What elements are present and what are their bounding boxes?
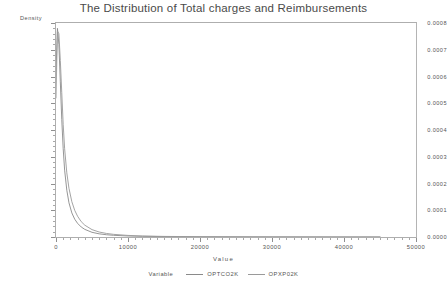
x-tick-minor (85, 238, 86, 240)
y-tick-label: 0.0003 (403, 154, 447, 160)
x-tick-minor (308, 238, 309, 240)
legend-entry-0: OPTCO2K (186, 271, 238, 277)
y-tick-minor (53, 119, 55, 120)
y-tick-mark (51, 130, 55, 131)
x-tick-minor (193, 238, 194, 240)
y-tick-mark (51, 77, 55, 78)
y-tick-minor (53, 87, 55, 88)
x-tick-label: 20000 (191, 244, 209, 250)
x-tick-minor (394, 238, 395, 240)
y-tick-minor (53, 44, 55, 45)
y-tick-mark (51, 50, 55, 51)
x-tick-label: 40000 (335, 244, 353, 250)
y-tick-minor (53, 114, 55, 115)
y-tick-minor (53, 167, 55, 168)
x-tick-minor (236, 238, 237, 240)
y-tick-minor (53, 55, 55, 56)
x-tick-mark (56, 238, 57, 242)
y-tick-minor (53, 39, 55, 40)
y-tick-label: 0.0006 (403, 74, 447, 80)
y-tick-mark (51, 157, 55, 158)
y-tick-minor (53, 141, 55, 142)
x-tick-minor (70, 238, 71, 240)
x-tick-mark (128, 238, 129, 242)
y-axis-label: Density (20, 15, 42, 21)
x-tick-minor (301, 238, 302, 240)
y-tick-minor (53, 226, 55, 227)
x-tick-minor (186, 238, 187, 240)
y-tick-minor (53, 109, 55, 110)
y-tick-label: 0.0004 (403, 127, 447, 133)
y-tick-minor (53, 178, 55, 179)
y-tick-label: 0.0001 (403, 207, 447, 213)
y-tick-mark (51, 184, 55, 185)
x-tick-minor (92, 238, 93, 240)
y-tick-minor (53, 71, 55, 72)
x-tick-minor (380, 238, 381, 240)
x-tick-minor (142, 238, 143, 240)
x-tick-minor (114, 238, 115, 240)
x-tick-minor (157, 238, 158, 240)
x-tick-minor (294, 238, 295, 240)
x-tick-minor (243, 238, 244, 240)
x-tick-minor (171, 238, 172, 240)
y-tick-label: 0.0008 (403, 20, 447, 26)
x-tick-minor (135, 238, 136, 240)
y-tick-mark (51, 23, 55, 24)
x-tick-minor (78, 238, 79, 240)
y-tick-minor (53, 60, 55, 61)
legend-swatch-icon-0 (186, 274, 203, 275)
legend-title: Variable (149, 271, 174, 277)
x-tick-minor (387, 238, 388, 240)
x-tick-minor (366, 238, 367, 240)
x-tick-minor (279, 238, 280, 240)
y-tick-minor (53, 194, 55, 195)
x-tick-mark (200, 238, 201, 242)
x-tick-minor (222, 238, 223, 240)
x-tick-minor (258, 238, 259, 240)
y-tick-minor (53, 28, 55, 29)
y-tick-minor (53, 173, 55, 174)
x-tick-minor (207, 238, 208, 240)
x-tick-minor (265, 238, 266, 240)
y-tick-label: 0.0007 (403, 47, 447, 53)
x-tick-minor (322, 238, 323, 240)
legend-label-0: OPTCO2K (207, 271, 238, 277)
y-tick-minor (53, 221, 55, 222)
density-curve-OPXP02K (56, 31, 380, 237)
y-tick-mark (51, 237, 55, 238)
x-tick-minor (106, 238, 107, 240)
chart-legend: Variable OPTCO2K OPXP02K (0, 271, 447, 277)
y-tick-label: 0.0002 (403, 181, 447, 187)
density-curves (56, 23, 416, 237)
x-tick-label: 10000 (119, 244, 137, 250)
y-tick-minor (53, 146, 55, 147)
y-tick-minor (53, 162, 55, 163)
x-tick-minor (214, 238, 215, 240)
x-tick-minor (229, 238, 230, 240)
y-tick-minor (53, 151, 55, 152)
x-tick-minor (358, 238, 359, 240)
x-tick-minor (150, 238, 151, 240)
x-tick-minor (315, 238, 316, 240)
legend-label-1: OPXP02K (269, 271, 299, 277)
y-tick-minor (53, 189, 55, 190)
x-tick-minor (337, 238, 338, 240)
y-tick-minor (53, 125, 55, 126)
x-tick-label: 30000 (263, 244, 281, 250)
y-tick-minor (53, 98, 55, 99)
x-tick-minor (330, 238, 331, 240)
x-tick-minor (99, 238, 100, 240)
x-tick-minor (402, 238, 403, 240)
legend-swatch-icon-1 (248, 274, 265, 275)
y-tick-minor (53, 66, 55, 67)
x-tick-minor (178, 238, 179, 240)
y-tick-minor (53, 232, 55, 233)
x-tick-minor (164, 238, 165, 240)
y-tick-minor (53, 135, 55, 136)
chart-title: The Distribution of Total charges and Re… (0, 2, 447, 14)
x-tick-minor (63, 238, 64, 240)
y-tick-minor (53, 93, 55, 94)
y-tick-minor (53, 82, 55, 83)
x-axis-label: Value (0, 256, 447, 262)
